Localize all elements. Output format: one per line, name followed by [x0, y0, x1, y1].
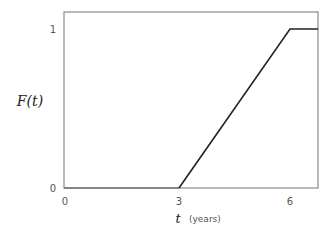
- x-axis-label-unit: (years): [189, 214, 221, 224]
- series-cdf-line: [179, 29, 318, 188]
- cdf-chart: 1 0 0 3 6 F(t) t (years): [0, 0, 332, 234]
- ytick-0: 0: [50, 183, 56, 194]
- xtick-3: 3: [176, 196, 182, 207]
- x-axis-label-var: t: [175, 211, 181, 226]
- ytick-1: 1: [50, 24, 56, 35]
- xtick-6: 6: [287, 196, 293, 207]
- y-axis-label: F(t): [16, 93, 43, 109]
- plot-frame: [64, 12, 318, 188]
- xtick-0: 0: [62, 196, 68, 207]
